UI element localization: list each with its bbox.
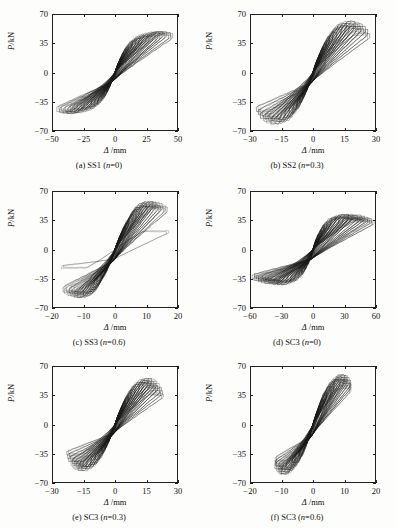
y-tick-mark — [52, 279, 55, 280]
y-axis-label: P/kN — [6, 384, 16, 402]
x-tick-label: 0 — [113, 311, 117, 321]
y-tick-mark — [250, 279, 253, 280]
y-tick-label: 70 — [238, 361, 247, 371]
panel-c: −70−3503570−20−1001020P/kNΔ /mm(c) SS3 (… — [0, 177, 198, 352]
plot-area-c: −70−3503570−20−1001020 — [52, 191, 178, 308]
caption-prefix: (b) SS2 ( — [270, 160, 301, 170]
y-axis-unit: /kN — [6, 384, 16, 397]
y-tick-label: 35 — [40, 390, 49, 400]
caption-prefix: (a) SS1 ( — [76, 160, 106, 170]
x-tick-label: −10 — [77, 311, 90, 321]
caption-suffix: =0) — [309, 337, 321, 347]
y-tick-mark — [250, 250, 253, 251]
y-axis-unit: /kN — [6, 209, 16, 222]
x-tick-mark — [178, 128, 179, 131]
x-tick-mark — [282, 366, 283, 369]
y-tick-mark — [373, 250, 376, 251]
x-tick-label: 0 — [311, 134, 315, 144]
x-axis-unit: /mm — [309, 322, 325, 332]
x-tick-mark — [376, 191, 377, 194]
y-tick-mark — [175, 454, 178, 455]
hysteresis-figure: −70−3503570−50−2502550P/kNΔ /mm(a) SS1 (… — [0, 0, 396, 529]
y-axis-unit: /kN — [6, 32, 16, 45]
panel-d: −70−3503570−60−3003060P/kNΔ /mm(d) SC3 (… — [198, 177, 396, 352]
y-tick-label: 70 — [238, 9, 247, 19]
panel-b: −70−3503570−30−1501530P/kNΔ /mm(b) SS2 (… — [198, 0, 396, 177]
x-tick-mark — [52, 480, 53, 483]
hysteresis-curves — [250, 366, 376, 483]
x-tick-mark — [250, 128, 251, 131]
x-tick-mark — [52, 191, 53, 194]
x-tick-label: −10 — [275, 486, 288, 496]
y-tick-mark — [175, 425, 178, 426]
panel-e: −70−3503570−30−1501530P/kNΔ /mm(e) SC3 (… — [0, 352, 198, 529]
hysteresis-curves — [52, 14, 178, 131]
x-axis-symbol: Δ — [104, 322, 109, 332]
caption-prefix: (c) SS3 ( — [73, 337, 103, 347]
y-tick-label: 70 — [40, 361, 49, 371]
y-tick-label: 35 — [238, 38, 247, 48]
y-tick-label: 0 — [242, 245, 246, 255]
panel-a: −70−3503570−50−2502550P/kNΔ /mm(a) SS1 (… — [0, 0, 198, 177]
x-axis-label: Δ /mm — [250, 322, 376, 332]
x-tick-mark — [376, 480, 377, 483]
y-axis-unit: /kN — [204, 32, 214, 45]
y-tick-mark — [373, 425, 376, 426]
x-tick-mark — [84, 191, 85, 194]
y-tick-mark — [250, 102, 253, 103]
y-axis-unit: /kN — [204, 384, 214, 397]
x-axis-unit: /mm — [309, 497, 325, 507]
x-tick-mark — [345, 128, 346, 131]
y-tick-mark — [175, 483, 178, 484]
y-tick-mark — [52, 131, 55, 132]
y-tick-label: −35 — [35, 97, 48, 107]
x-tick-mark — [313, 128, 314, 131]
x-tick-mark — [84, 128, 85, 131]
y-tick-mark — [250, 454, 253, 455]
y-axis-symbol: P — [6, 397, 16, 402]
y-tick-label: −35 — [233, 449, 246, 459]
x-tick-mark — [147, 366, 148, 369]
hysteresis-curves — [250, 191, 376, 308]
x-tick-mark — [178, 14, 179, 17]
panel-caption-b: (b) SS2 (n=0.3) — [198, 160, 396, 170]
x-tick-mark — [282, 128, 283, 131]
x-tick-mark — [313, 14, 314, 17]
caption-prefix: (e) SC3 ( — [72, 512, 103, 522]
x-axis-unit: /mm — [111, 497, 127, 507]
caption-suffix: =0.3) — [108, 512, 126, 522]
y-tick-mark — [52, 425, 55, 426]
x-tick-label: −20 — [243, 486, 256, 496]
x-axis-label: Δ /mm — [52, 497, 178, 507]
x-tick-label: 10 — [340, 486, 349, 496]
x-tick-mark — [376, 366, 377, 369]
x-tick-label: −25 — [77, 134, 90, 144]
y-tick-mark — [52, 483, 55, 484]
plot-area-d: −70−3503570−60−3003060 — [250, 191, 376, 308]
x-tick-mark — [313, 480, 314, 483]
y-axis-label: P/kN — [6, 32, 16, 50]
y-tick-mark — [373, 308, 376, 309]
y-tick-mark — [52, 102, 55, 103]
x-tick-mark — [147, 191, 148, 194]
y-tick-mark — [175, 395, 178, 396]
y-axis-symbol: P — [6, 222, 16, 227]
x-tick-label: 30 — [372, 134, 381, 144]
y-tick-mark — [52, 395, 55, 396]
y-tick-mark — [250, 220, 253, 221]
x-tick-mark — [115, 128, 116, 131]
x-tick-label: 15 — [142, 486, 151, 496]
y-tick-mark — [373, 279, 376, 280]
x-axis-symbol: Δ — [104, 145, 109, 155]
x-tick-mark — [250, 14, 251, 17]
x-tick-mark — [282, 191, 283, 194]
y-tick-label: −35 — [233, 274, 246, 284]
x-axis-label: Δ /mm — [52, 322, 178, 332]
y-tick-mark — [52, 220, 55, 221]
y-tick-mark — [373, 483, 376, 484]
y-tick-mark — [175, 131, 178, 132]
x-tick-mark — [147, 480, 148, 483]
x-tick-mark — [52, 366, 53, 369]
plot-area-f: −70−3503570−20−1001020 — [250, 366, 376, 483]
y-tick-mark — [52, 308, 55, 309]
